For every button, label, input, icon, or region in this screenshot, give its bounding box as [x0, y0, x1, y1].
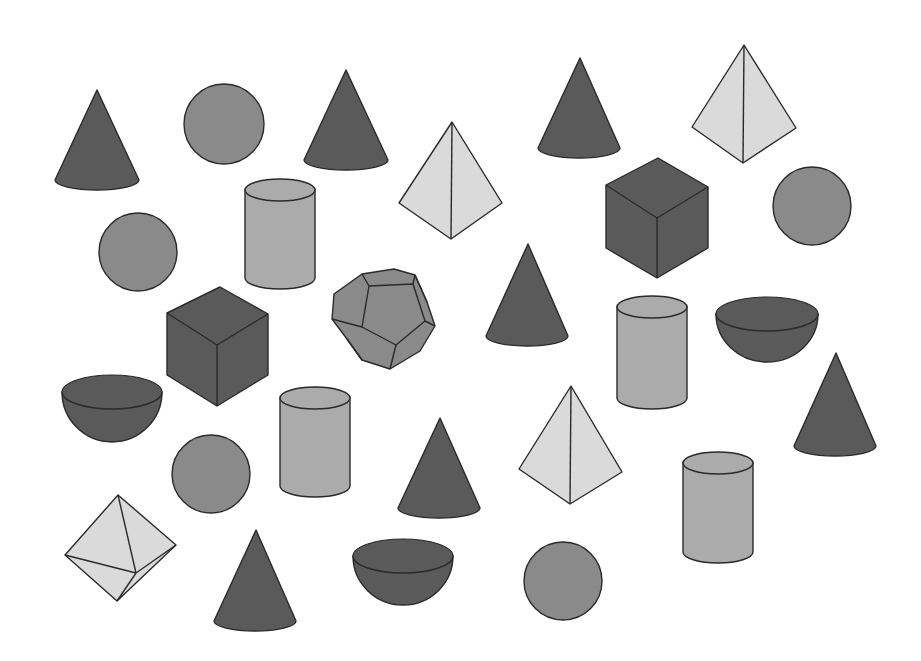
shapes-canvas	[0, 0, 921, 661]
tetrahedron-3-shape	[519, 386, 622, 504]
cone-5-shape	[398, 418, 480, 518]
cone-7-shape	[214, 530, 296, 631]
cylinder-2-shape	[617, 296, 687, 409]
cone-2-shape	[304, 70, 388, 170]
cone-3-shape	[538, 58, 620, 158]
cube-2-shape	[167, 287, 268, 406]
tetrahedron-1-shape	[692, 45, 796, 163]
cylinder-4-shape	[683, 452, 753, 563]
cube-1-shape	[606, 158, 708, 278]
sphere-2-shape	[773, 167, 851, 245]
tetrahedron-2-shape	[399, 122, 502, 239]
shapes-illustration	[0, 0, 921, 661]
cone-6-shape	[794, 353, 876, 456]
hemisphere-2-shape	[62, 375, 162, 442]
hemisphere-3-shape	[353, 539, 453, 605]
sphere-1-shape	[184, 84, 264, 164]
sphere-3-shape	[99, 213, 177, 291]
octahedron-1-shape	[65, 495, 176, 601]
cone-1-shape	[55, 90, 139, 190]
hemisphere-1-shape	[716, 297, 818, 362]
cylinder-3-shape	[280, 387, 350, 497]
sphere-5-shape	[524, 542, 602, 620]
sphere-4-shape	[172, 435, 250, 513]
cylinder-1-shape	[245, 179, 315, 289]
cone-4-shape	[486, 244, 568, 346]
dodecahedron-1-shape	[332, 269, 435, 369]
